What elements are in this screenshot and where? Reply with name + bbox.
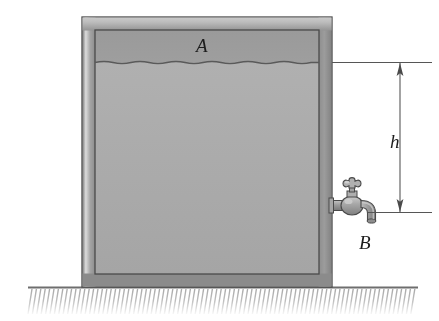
tank-bottom-slab (83, 274, 332, 287)
faucet-handle-highlight (345, 181, 350, 184)
water-tank (82, 17, 332, 287)
label-point-b: B (359, 233, 371, 252)
figure-canvas: A B h (0, 0, 439, 321)
dimension-h (332, 63, 432, 213)
ground-hatching (28, 289, 415, 314)
tank-top-rim (83, 18, 332, 31)
tank-left-wall (83, 18, 96, 287)
faucet-wall-flange (329, 198, 334, 213)
faucet-outlet (367, 219, 376, 223)
label-point-a: A (196, 36, 208, 55)
tank-diagram-svg (0, 0, 439, 321)
tank-right-wall (319, 18, 332, 287)
faucet-body-highlight (345, 199, 353, 204)
label-height-h: h (390, 132, 400, 151)
ground-group (28, 288, 418, 315)
tank-water-body (95, 62, 319, 274)
faucet-body-bulb (341, 196, 363, 215)
faucet-assembly (329, 178, 376, 223)
